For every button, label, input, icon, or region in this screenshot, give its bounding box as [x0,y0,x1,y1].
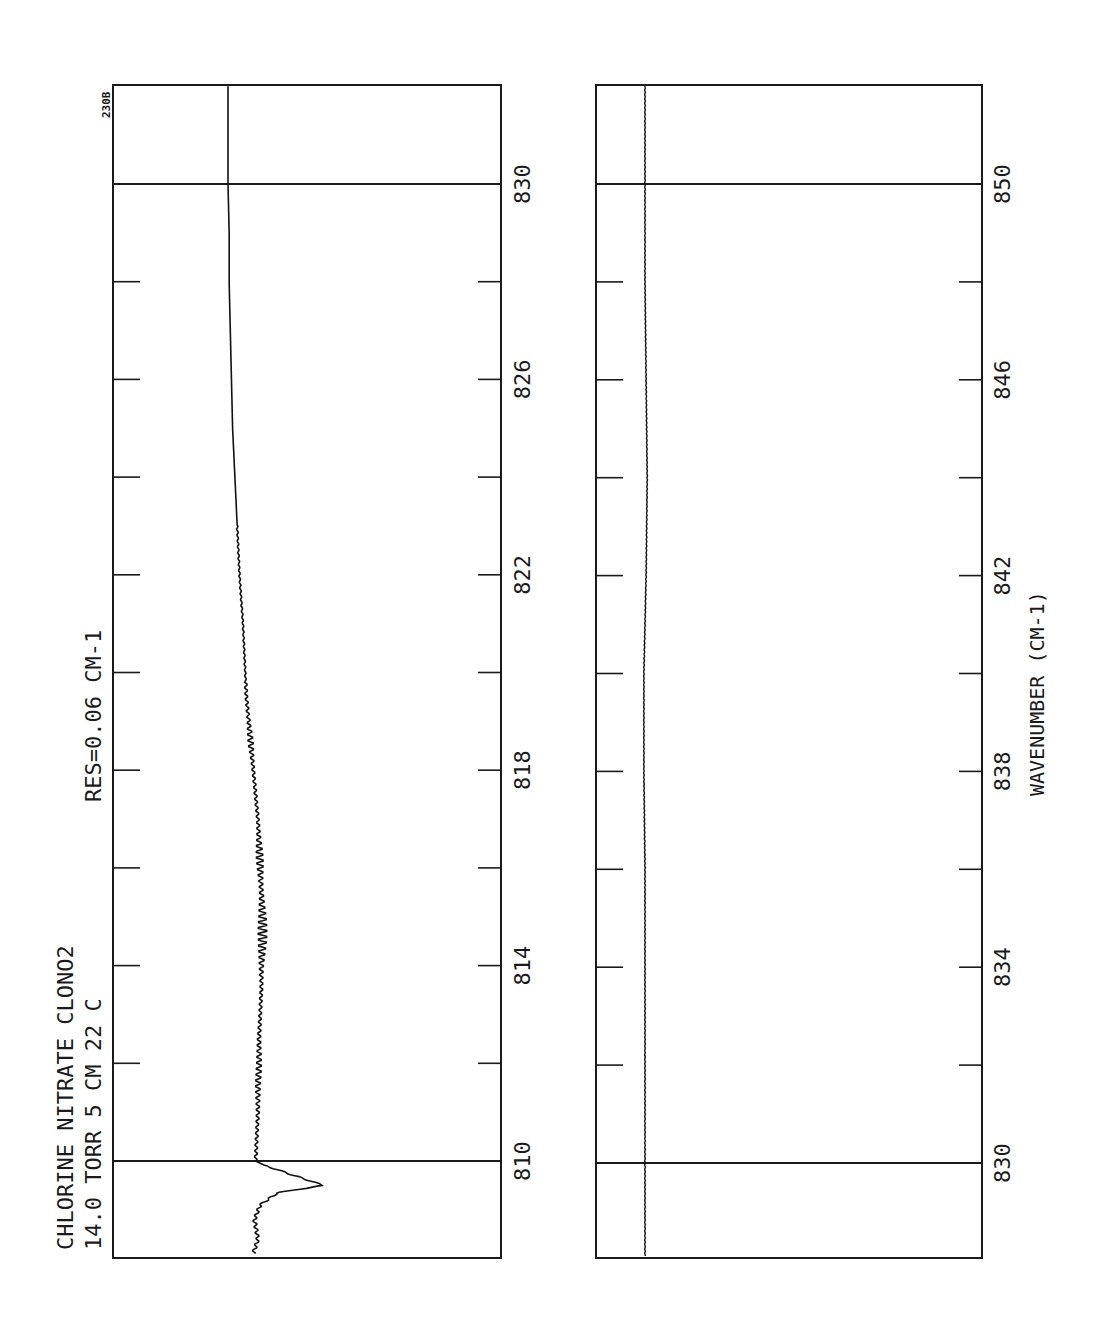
tick-label: 830 [510,164,535,204]
right-panel: 830834838842846850 [596,85,1015,1258]
x-axis-label: WAVENUMBER (CM-1) [1025,591,1049,796]
left-tick-labels: 810814818822826830 [510,164,535,1181]
tick-label: 834 [990,947,1015,987]
right-tick-labels: 830834838842846850 [990,164,1015,1183]
resolution-label: RES=0.06 CM-1 [81,630,106,802]
tick-label: 818 [510,750,535,790]
left-panel: 810814818822826830 [113,85,535,1258]
tick-label: 846 [990,360,1015,400]
tick-label: 826 [510,360,535,400]
title-line-2: 14.0 TORR 5 CM 22 C [81,998,106,1250]
left-ticks [113,282,501,1064]
left-plot-frame [113,85,501,1258]
tick-label: 830 [990,1143,1015,1183]
tick-label: 842 [990,556,1015,596]
tick-label: 810 [510,1141,535,1181]
right-spectrum-trace [644,86,648,1256]
tick-label: 850 [990,164,1015,204]
plate-id: 230B [100,91,113,118]
tick-label: 814 [510,946,535,986]
spectrum-plot: 810814818822826830 830834838842846850 23… [0,0,1101,1331]
title-line-1: CHLORINE NITRATE CLONO2 [53,945,78,1250]
tick-label: 838 [990,752,1015,792]
left-spectrum-trace [228,86,322,1254]
right-plot-frame [596,85,982,1258]
right-ticks [596,282,982,1065]
tick-label: 822 [510,555,535,595]
